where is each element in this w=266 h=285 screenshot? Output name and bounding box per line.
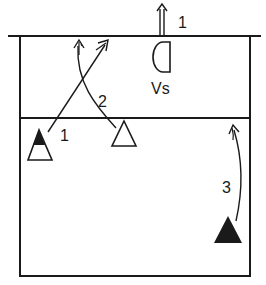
crossing-arrows-label: 2 <box>98 93 107 110</box>
right-player-label: 3 <box>222 179 231 196</box>
vs-semicircle <box>153 42 170 72</box>
court-boundary <box>20 36 250 276</box>
vs-label: Vs <box>151 80 170 97</box>
curved-arrow-up-icon <box>229 125 241 221</box>
double-arrow-up-icon <box>157 4 167 36</box>
court-diagram: 1 Vs 2 1 3 <box>0 0 266 285</box>
player-right <box>214 216 242 243</box>
player-left <box>28 130 52 160</box>
left-player-label: 1 <box>60 127 69 144</box>
player-center <box>112 121 136 146</box>
top-arrow-label: 1 <box>178 14 187 31</box>
